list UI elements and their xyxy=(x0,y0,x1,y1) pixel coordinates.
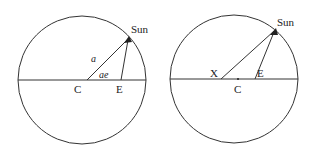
kepler-orbit-diagrams: Sun a ae C E Sun X C E xyxy=(0,0,318,153)
right-sun-label: Sun xyxy=(277,16,295,28)
right-point-label-e: E xyxy=(257,67,264,79)
left-point-label-e: E xyxy=(116,83,123,95)
left-segment-label-a: a xyxy=(91,53,96,64)
left-point-label-c: C xyxy=(74,83,81,95)
right-point-label-x: X xyxy=(210,67,218,79)
right-line-x-to-sun xyxy=(221,31,274,79)
left-diagram: Sun a ae C E xyxy=(18,16,149,144)
left-line-e-to-sun xyxy=(121,40,128,80)
right-center-dot xyxy=(237,78,239,80)
right-point-label-c: C xyxy=(234,83,241,95)
right-diagram: Sun X C E xyxy=(170,15,298,143)
left-sun-label: Sun xyxy=(131,23,149,35)
left-sun-marker-icon xyxy=(124,36,132,43)
left-segment-label-ae: ae xyxy=(99,69,109,80)
